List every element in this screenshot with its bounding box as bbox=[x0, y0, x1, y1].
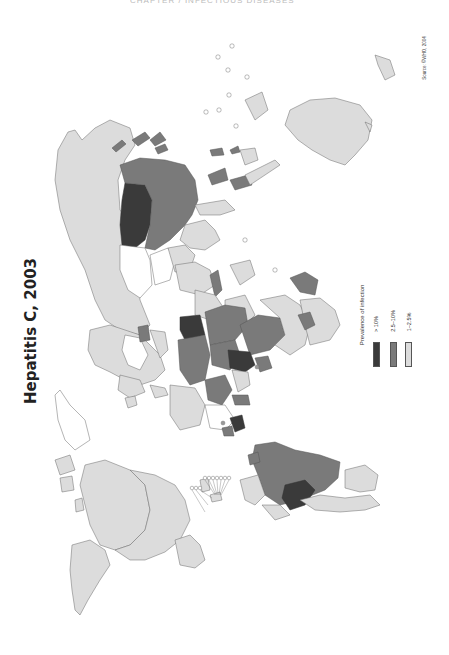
region-north-africa bbox=[178, 335, 210, 385]
world-map bbox=[0, 0, 449, 655]
region-madagascar bbox=[290, 272, 318, 295]
legend-label-low: 1–2.5% bbox=[406, 313, 412, 332]
region-se-asia bbox=[180, 220, 220, 250]
legend-swatch-high bbox=[373, 342, 380, 367]
source-credit: Source: ©WHO, 2004 bbox=[422, 36, 427, 80]
region-pakistan bbox=[210, 270, 222, 297]
legend-swatch-low bbox=[405, 342, 412, 367]
region-indonesia bbox=[208, 168, 228, 185]
region-mexico bbox=[175, 535, 205, 568]
map-title: Hepatitis C, 2003 bbox=[22, 258, 40, 404]
legend-label-high: > 10% bbox=[373, 316, 379, 332]
legend-swatch-medium bbox=[390, 342, 397, 367]
region-australia bbox=[285, 98, 372, 165]
legend-label-medium: 2.5–10% bbox=[390, 310, 396, 332]
region-argentina bbox=[300, 495, 380, 512]
caribbean-callouts bbox=[190, 476, 231, 512]
legend-title: Prevalence of infection bbox=[359, 285, 365, 346]
region-alaska-greenland bbox=[55, 390, 90, 450]
